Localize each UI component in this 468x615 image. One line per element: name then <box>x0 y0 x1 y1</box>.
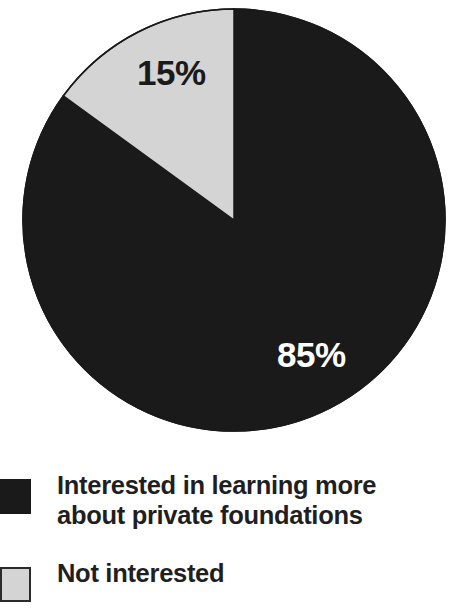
pie-data-label-interested: 85% <box>277 337 346 372</box>
pie-chart-plot-area: 15% 85% <box>0 0 468 445</box>
legend-label-interested: Interested in learning more about privat… <box>57 470 447 530</box>
legend-item-not-interested[interactable]: Not interested <box>0 558 468 602</box>
legend-swatch-interested <box>0 479 31 514</box>
pie-data-label-not-interested: 15% <box>137 55 206 90</box>
legend-item-interested[interactable]: Interested in learning more about privat… <box>0 470 468 530</box>
pie-chart-svg <box>0 0 468 445</box>
chart-legend: Interested in learning more about privat… <box>0 470 468 615</box>
legend-label-not-interested: Not interested <box>57 558 447 588</box>
legend-swatch-not-interested <box>0 567 31 602</box>
pie-chart-figure: 15% 85% Interested in learning more abou… <box>0 0 468 615</box>
